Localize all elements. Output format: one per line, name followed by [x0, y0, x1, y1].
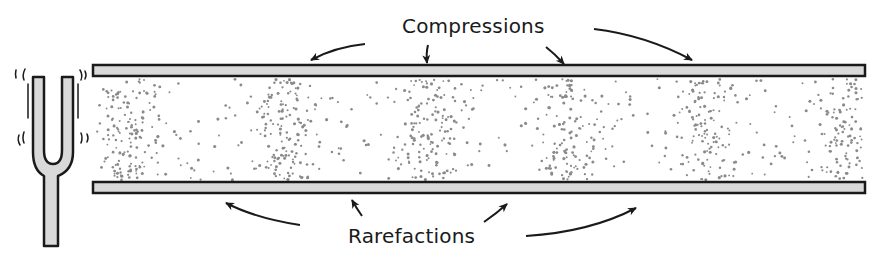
compressions-label: Compressions: [402, 14, 545, 38]
tube-top-wall: [93, 65, 865, 76]
tube-bottom-wall: [93, 182, 865, 193]
vibration-marks: [16, 69, 89, 145]
air-particles: [96, 78, 863, 182]
sound-wave-diagram: Compressions Rarefactions: [0, 0, 878, 263]
rarefactions-label: Rarefactions: [348, 224, 475, 248]
tube: [93, 65, 865, 193]
tuning-fork-icon: [33, 77, 73, 246]
